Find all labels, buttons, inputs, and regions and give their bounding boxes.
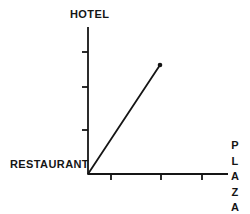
plaza-letter-3: A [231,169,239,185]
diagram-canvas: HOTEL RESTAURANT P L A Z A [0,0,250,214]
plaza-letter-4: Z [232,185,239,201]
plaza-letter-1: P [231,138,238,154]
plot-area [0,0,250,214]
plaza-letter-5: A [231,200,239,214]
y-axis-group [82,27,88,174]
data-point-marker [158,63,163,68]
data-series-group [88,63,162,174]
x-axis-group [88,174,228,180]
y-axis-label-hotel: HOTEL [70,9,109,20]
x-axis-label-plaza: P L A Z A [231,138,239,214]
data-line-segment [88,65,160,174]
origin-label-restaurant: RESTAURANT [10,159,89,170]
plaza-letter-2: L [232,154,239,170]
